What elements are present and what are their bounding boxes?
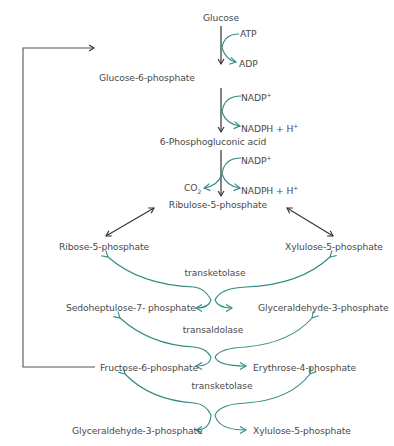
node-ribulose-5-phosphate: Ribulose-5-phosphate <box>169 199 267 210</box>
node-ribose-5-phosphate: Ribose-5-phosphate <box>59 241 149 252</box>
transketolase-step1-arrows <box>108 257 330 308</box>
node-glyceraldehyde-3-phosphate-1: Glyceraldehyde-3-phosphate <box>258 302 388 313</box>
node-xylulose-5-phosphate-in: Xylulose-5-phosphate <box>285 241 383 252</box>
epimerase-double-arrow <box>287 208 333 236</box>
cofactor-atp: ATP <box>240 28 256 39</box>
pathway-arrows <box>0 0 394 446</box>
enzyme-transketolase-2: transketolase <box>192 381 253 392</box>
cofactor-nadp-2: NADP+ <box>241 152 271 166</box>
node-fructose-6-phosphate-1: Fructose-6-phosphate <box>100 362 198 373</box>
enzyme-transketolase-1: transketolase <box>185 268 246 279</box>
node-glyceraldehyde-3-phosphate-2: Glyceraldehyde-3-phosphate <box>72 425 202 436</box>
cofactor-nadph-2: NADPH + H+ <box>241 182 298 196</box>
main-arrow-glucose-g6p <box>221 26 239 64</box>
node-glucose-6-phosphate: Glucose-6-phosphate <box>99 72 195 83</box>
main-arrow-g6p-pga <box>221 88 241 132</box>
node-glucose: Glucose <box>203 12 239 23</box>
feedback-arrow-f6p-g6p <box>23 48 95 367</box>
main-arrow-pga-ru5p <box>204 150 241 196</box>
pentose-phosphate-diagram: Glucose ATP ADP Glucose-6-phosphate NADP… <box>0 0 394 446</box>
cofactor-adp: ADP <box>239 58 258 69</box>
cofactor-co2: CO2 <box>184 182 201 197</box>
enzyme-transaldolase: transaldolase <box>183 325 244 336</box>
cofactor-nadp-1: NADP+ <box>241 89 271 103</box>
isomerase-double-arrow <box>106 208 154 236</box>
node-sedoheptulose-7-phosphate: Sedoheptulose-7- phosphate <box>66 302 196 313</box>
node-xylulose-5-phosphate-out: Xylulose-5-phosphate <box>253 425 351 436</box>
cofactor-nadph-1: NADPH + H+ <box>241 120 298 134</box>
node-6-phosphogluconic-acid: 6-Phosphogluconic acid <box>160 136 266 147</box>
node-erythrose-4-phosphate: Erythrose-4-phosphate <box>253 362 356 373</box>
